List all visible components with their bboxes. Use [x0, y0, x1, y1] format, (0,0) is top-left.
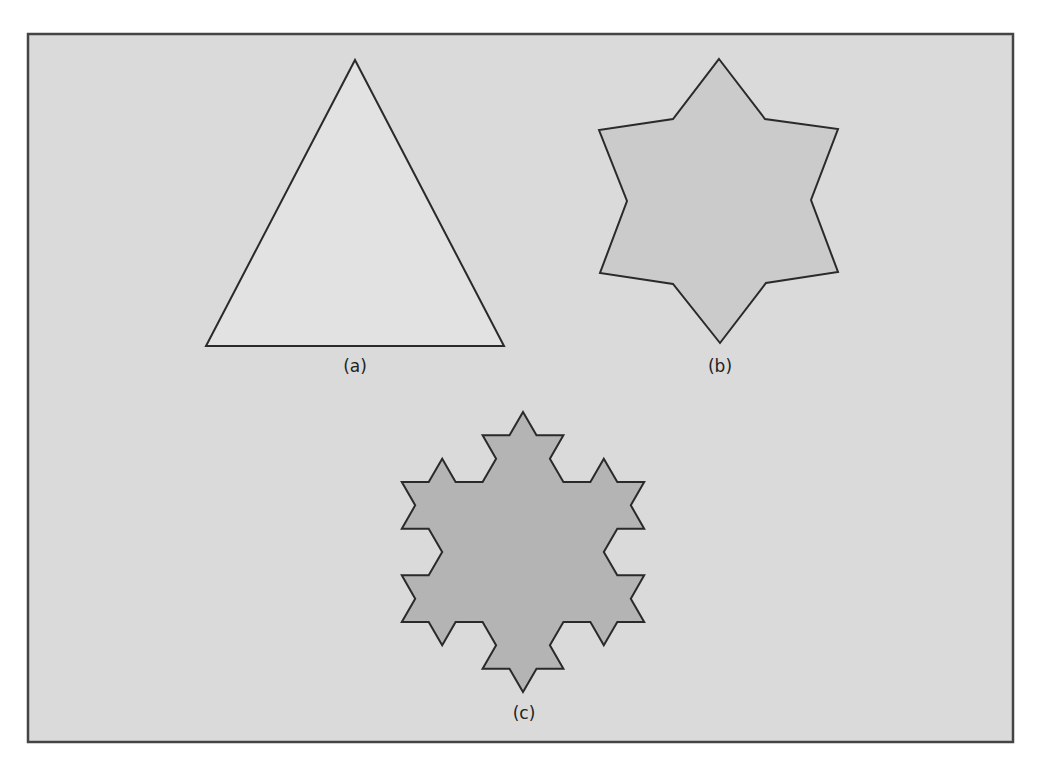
panel-label-a: (a) [343, 356, 367, 376]
koch-snowflake-figure: (a) (b) (c) [0, 0, 1040, 768]
panel-label-b: (b) [708, 356, 732, 376]
panel-label-c: (c) [513, 703, 536, 723]
